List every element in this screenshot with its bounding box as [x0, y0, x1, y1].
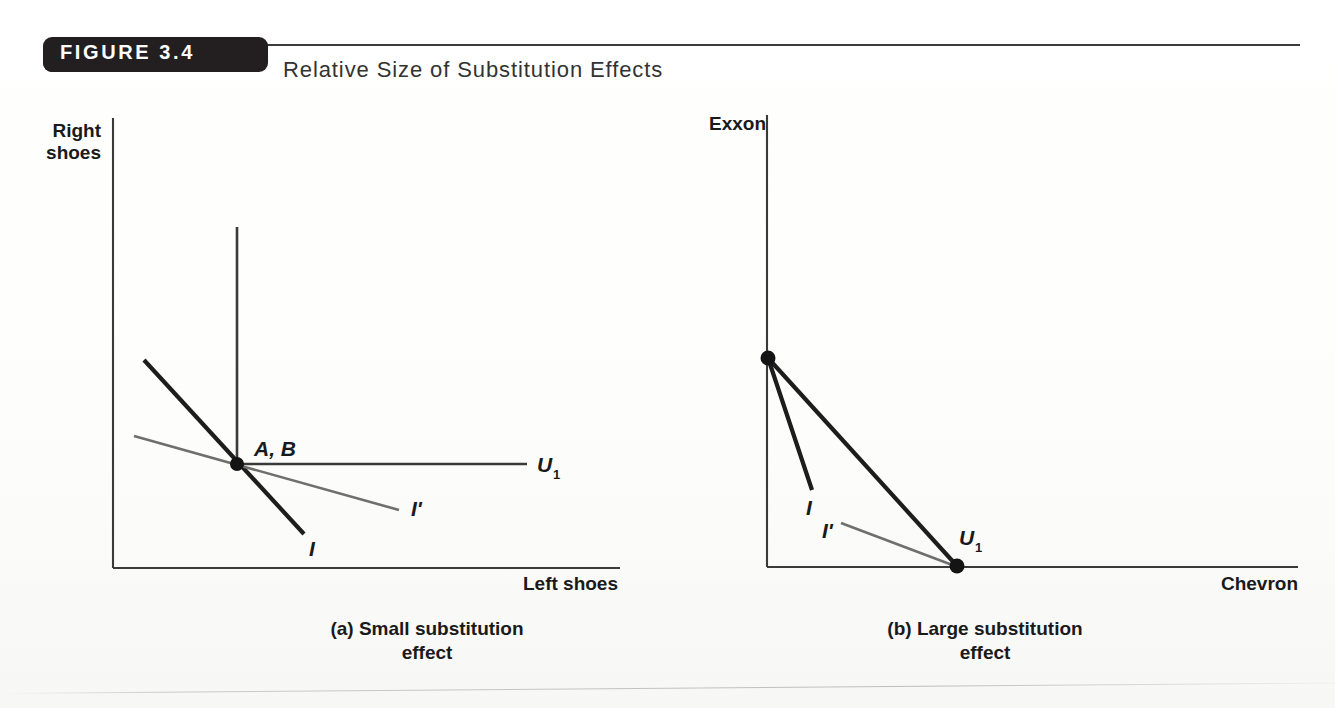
panel-b: Exxon Chevron I I' U 1 (b) Large substit… — [709, 113, 1298, 663]
panel-a-point-ab-marker — [230, 457, 244, 471]
panel-a-u1-label: U 1 — [537, 453, 560, 482]
panel-b-chevron-intercept-marker — [950, 559, 965, 574]
figure-plot-area: Right shoes Left shoes A, B U 1 I I' (a)… — [0, 0, 1335, 708]
panel-b-u1-label: U 1 — [959, 526, 982, 555]
panel-b-u1-label-subscript: 1 — [975, 540, 982, 555]
panel-b-exxon-intercept-marker — [761, 351, 776, 366]
panel-a-u1-label-subscript: 1 — [553, 467, 560, 482]
panel-a-budget-line-i-prime-label: I' — [411, 497, 423, 520]
figure-number-label: FIGURE 3.4 — [60, 41, 195, 64]
figure-svg: Right shoes Left shoes A, B U 1 I I' (a)… — [0, 0, 1335, 708]
panel-a-x-axis-label: Left shoes — [523, 573, 618, 594]
panel-b-x-axis-label: Chevron — [1221, 573, 1298, 594]
panel-b-y-axis-label: Exxon — [709, 113, 766, 134]
panel-b-u1-label-letter: U — [959, 526, 975, 549]
panel-a-y-axis-label-line2: shoes — [46, 142, 101, 163]
panel-b-caption-line1: (b) Large substitution — [887, 618, 1082, 639]
panel-b-budget-line-i — [768, 358, 812, 490]
panel-b-caption-line2: effect — [960, 642, 1011, 663]
panel-a-caption-line1: (a) Small substitution — [330, 618, 523, 639]
panel-a-indifference-curve-u1 — [237, 227, 527, 464]
panel-b-budget-line-i-label: I — [806, 496, 813, 519]
panel-a-budget-line-i-label: I — [309, 537, 316, 560]
panel-a-caption-line2: effect — [402, 642, 453, 663]
panel-b-indifference-curve-u1 — [768, 358, 957, 566]
panel-b-budget-line-i-prime-label: I' — [822, 519, 834, 542]
panel-a-u1-label-letter: U — [537, 453, 553, 476]
panel-a-point-ab-label: A, B — [253, 437, 296, 460]
panel-a: Right shoes Left shoes A, B U 1 I I' (a)… — [46, 118, 620, 663]
panel-a-y-axis-label-line1: Right — [52, 120, 101, 141]
